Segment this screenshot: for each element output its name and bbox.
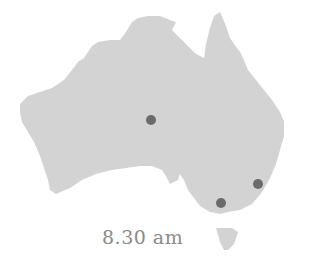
location-marker[interactable] <box>253 179 263 189</box>
mainland <box>20 12 284 214</box>
location-marker[interactable] <box>146 115 156 125</box>
tasmania <box>216 228 238 250</box>
location-marker[interactable] <box>216 198 226 208</box>
time-label: 8.30 am <box>102 226 183 248</box>
landmass <box>20 12 284 250</box>
